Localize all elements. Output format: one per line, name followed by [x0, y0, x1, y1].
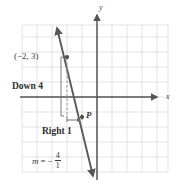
slope-fraction: 4 1	[55, 152, 61, 171]
point-marker-p	[80, 115, 84, 119]
slope-numerator: 4	[55, 152, 61, 160]
slope-negative-sign: −	[48, 157, 53, 166]
slope-graph-figure: x y (−2, 3) P Down 4 Right 1 m = − 4 1	[0, 0, 188, 191]
y-axis-label: y	[99, 4, 103, 12]
right-1-label: Right 1	[42, 127, 72, 137]
graph-canvas	[0, 0, 188, 191]
x-axis-label: x	[166, 93, 170, 101]
slope-denominator: 1	[55, 162, 61, 170]
plotted-line	[57, 28, 93, 176]
equals-sign: =	[41, 157, 46, 166]
slope-formula: m = − 4 1	[32, 152, 61, 171]
down-4-bracket	[61, 57, 64, 116]
point-label-neg2-3: (−2, 3)	[14, 52, 39, 61]
grid-lines	[22, 25, 168, 172]
point-label-p: P	[86, 111, 92, 120]
down-4-label: Down 4	[12, 82, 43, 92]
point-marker-neg2-3	[65, 55, 69, 59]
slope-symbol: m	[32, 157, 39, 166]
